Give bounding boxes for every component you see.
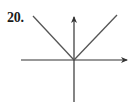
v-graph-diagram [0, 0, 138, 110]
left-arm-line [33, 16, 74, 60]
exercise-figure: 20. [0, 0, 138, 110]
right-arm-line [74, 15, 117, 60]
